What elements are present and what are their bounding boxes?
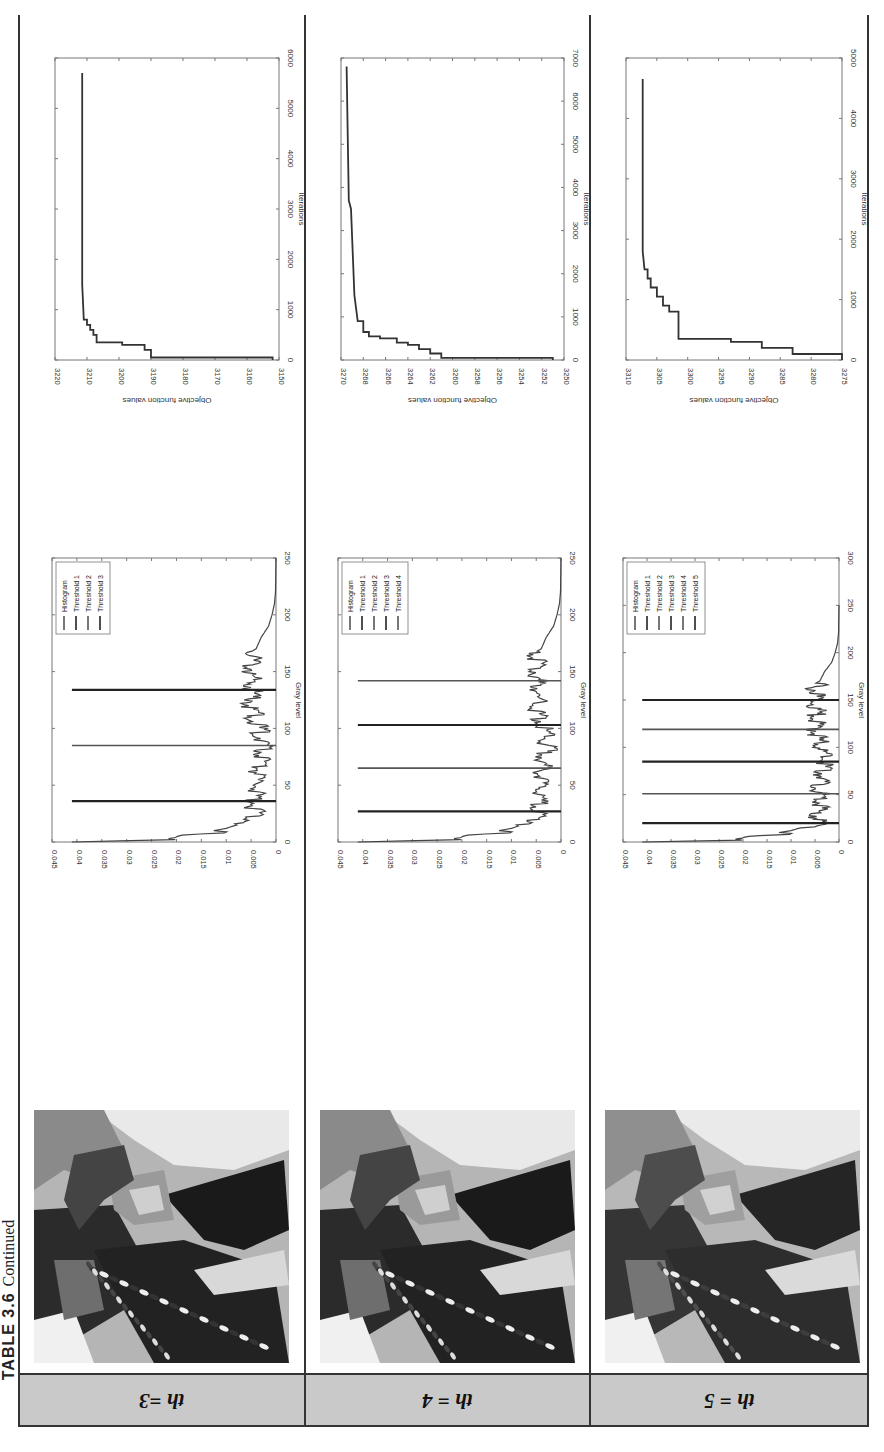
results-table: 0100020003000400050006000315031603170318… bbox=[18, 0, 868, 1427]
svg-text:0.03: 0.03 bbox=[693, 850, 702, 865]
svg-text:3300: 3300 bbox=[686, 368, 695, 385]
svg-text:0: 0 bbox=[849, 358, 858, 363]
svg-text:Objective function values: Objective function values bbox=[690, 396, 779, 405]
svg-text:100: 100 bbox=[283, 722, 292, 736]
svg-text:Threshold 2: Threshold 2 bbox=[656, 575, 663, 612]
svg-text:100: 100 bbox=[846, 741, 855, 755]
svg-text:1000: 1000 bbox=[571, 308, 580, 326]
svg-text:Threshold 4: Threshold 4 bbox=[680, 575, 687, 612]
svg-text:3254: 3254 bbox=[517, 368, 526, 385]
svg-text:0.045: 0.045 bbox=[336, 850, 345, 869]
svg-text:5000: 5000 bbox=[571, 135, 580, 153]
svg-text:Threshold 3: Threshold 3 bbox=[97, 575, 104, 612]
svg-text:300: 300 bbox=[846, 551, 855, 565]
svg-text:3000: 3000 bbox=[286, 200, 295, 218]
svg-text:3256: 3256 bbox=[495, 368, 504, 385]
svg-text:3266: 3266 bbox=[384, 368, 393, 385]
row-label-band-th5: th = 5 bbox=[591, 1375, 867, 1425]
svg-text:250: 250 bbox=[846, 599, 855, 613]
histogram-chart-th4: 05010015020025000.0050.010.0150.020.0250… bbox=[306, 540, 589, 870]
svg-text:Gray level: Gray level bbox=[857, 682, 866, 718]
svg-text:3258: 3258 bbox=[473, 368, 482, 385]
svg-text:200: 200 bbox=[846, 646, 855, 660]
svg-text:Gray level: Gray level bbox=[294, 682, 303, 718]
svg-text:100: 100 bbox=[568, 722, 577, 736]
table-caption-suffix: Continued bbox=[0, 1220, 17, 1287]
histogram-chart-th3: 05010015020025000.0050.010.0150.020.0250… bbox=[20, 540, 304, 870]
svg-text:Objective function values: Objective function values bbox=[123, 396, 212, 405]
svg-text:7000: 7000 bbox=[571, 49, 580, 67]
svg-text:0.015: 0.015 bbox=[199, 850, 208, 869]
svg-text:Threshold 5: Threshold 5 bbox=[692, 575, 699, 612]
svg-text:0.01: 0.01 bbox=[789, 850, 798, 865]
svg-text:0: 0 bbox=[571, 358, 580, 363]
svg-text:250: 250 bbox=[568, 551, 577, 565]
table-column-th5: 0100020003000400050003275328032853290329… bbox=[591, 0, 867, 1427]
svg-text:3252: 3252 bbox=[540, 368, 549, 385]
svg-text:Histogram: Histogram bbox=[632, 580, 640, 612]
svg-text:0.035: 0.035 bbox=[386, 850, 395, 869]
svg-text:0.04: 0.04 bbox=[75, 850, 84, 865]
svg-text:150: 150 bbox=[846, 693, 855, 707]
svg-text:6000: 6000 bbox=[286, 49, 295, 67]
svg-text:3000: 3000 bbox=[571, 222, 580, 240]
row-label-th4: th = 4 bbox=[422, 1388, 472, 1413]
svg-text:Iterations: Iterations bbox=[582, 193, 589, 226]
svg-text:5000: 5000 bbox=[849, 49, 858, 67]
row-label-band-th4: th = 4 bbox=[306, 1375, 589, 1425]
svg-text:0: 0 bbox=[286, 358, 295, 363]
svg-text:3310: 3310 bbox=[624, 368, 633, 385]
svg-text:0.03: 0.03 bbox=[410, 850, 419, 865]
svg-text:250: 250 bbox=[283, 551, 292, 565]
svg-text:0.005: 0.005 bbox=[813, 850, 822, 869]
svg-text:0.045: 0.045 bbox=[50, 850, 59, 869]
svg-text:0.045: 0.045 bbox=[621, 850, 630, 869]
svg-text:0.025: 0.025 bbox=[150, 850, 159, 869]
svg-text:4000: 4000 bbox=[286, 150, 295, 168]
svg-text:4000: 4000 bbox=[849, 110, 858, 128]
svg-text:0.02: 0.02 bbox=[460, 850, 469, 865]
svg-text:3270: 3270 bbox=[339, 368, 348, 385]
svg-text:0: 0 bbox=[568, 840, 577, 845]
row-label-th3: th =3 bbox=[139, 1388, 184, 1413]
svg-text:0.035: 0.035 bbox=[100, 850, 109, 869]
svg-text:Iterations: Iterations bbox=[860, 193, 867, 226]
svg-text:0.015: 0.015 bbox=[765, 850, 774, 869]
svg-text:150: 150 bbox=[568, 665, 577, 679]
svg-text:50: 50 bbox=[846, 790, 855, 799]
svg-text:0: 0 bbox=[846, 840, 855, 845]
svg-text:Threshold 3: Threshold 3 bbox=[383, 575, 390, 612]
svg-text:Iterations: Iterations bbox=[297, 193, 304, 226]
svg-text:6000: 6000 bbox=[571, 92, 580, 110]
svg-text:Threshold 1: Threshold 1 bbox=[73, 575, 80, 612]
svg-text:3150: 3150 bbox=[277, 368, 286, 385]
svg-text:3190: 3190 bbox=[149, 368, 158, 385]
svg-text:1000: 1000 bbox=[849, 291, 858, 309]
svg-text:0.005: 0.005 bbox=[249, 850, 258, 869]
svg-text:2000: 2000 bbox=[849, 230, 858, 248]
svg-text:0.04: 0.04 bbox=[361, 850, 370, 865]
svg-text:Threshold 1: Threshold 1 bbox=[644, 575, 651, 612]
svg-text:200: 200 bbox=[568, 608, 577, 622]
row-label-th5: th = 5 bbox=[704, 1388, 754, 1413]
svg-text:0.01: 0.01 bbox=[509, 850, 518, 865]
svg-text:3295: 3295 bbox=[717, 368, 726, 385]
svg-text:5000: 5000 bbox=[286, 99, 295, 117]
histogram-chart-th5: 05010015020025030000.0050.010.0150.020.0… bbox=[591, 540, 867, 870]
svg-text:3264: 3264 bbox=[406, 368, 415, 385]
svg-text:0.02: 0.02 bbox=[741, 850, 750, 865]
table-column-th4: 0100020003000400050006000700032503252325… bbox=[306, 0, 589, 1427]
svg-text:3280: 3280 bbox=[809, 368, 818, 385]
svg-text:3170: 3170 bbox=[213, 368, 222, 385]
svg-text:Objective function values: Objective function values bbox=[408, 396, 497, 405]
svg-text:Histogram: Histogram bbox=[61, 580, 69, 612]
svg-text:1000: 1000 bbox=[286, 301, 295, 319]
svg-text:3210: 3210 bbox=[85, 368, 94, 385]
svg-text:3250: 3250 bbox=[562, 368, 571, 385]
svg-text:3180: 3180 bbox=[181, 368, 190, 385]
svg-text:0: 0 bbox=[274, 850, 283, 854]
svg-text:3305: 3305 bbox=[655, 368, 664, 385]
svg-text:0.015: 0.015 bbox=[485, 850, 494, 869]
svg-text:3220: 3220 bbox=[53, 368, 62, 385]
segmented-image-th3 bbox=[34, 1110, 289, 1363]
